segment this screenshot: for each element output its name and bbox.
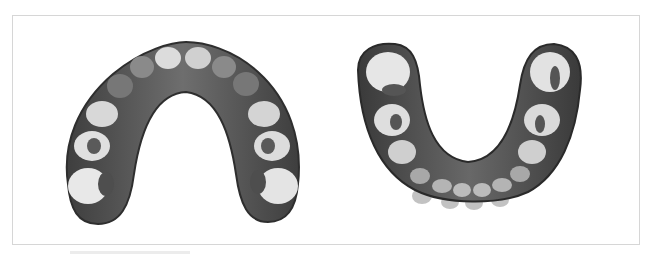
lower-dental-arch-image <box>350 40 590 212</box>
upper-dental-arch-image <box>58 34 308 230</box>
faint-caption-strip <box>70 251 190 254</box>
